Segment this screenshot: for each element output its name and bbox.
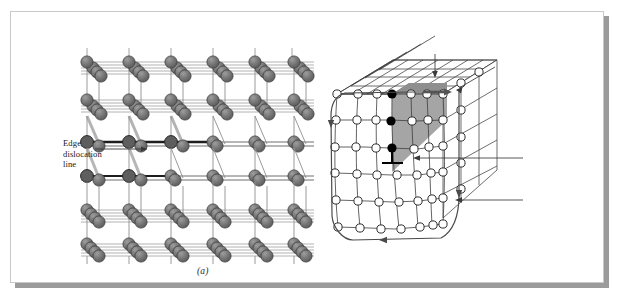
figure-plate: Edge dislocation line (a) bbox=[10, 11, 604, 283]
lattice-upper bbox=[81, 56, 314, 120]
panel-b-cube bbox=[319, 20, 589, 270]
annotation-edge-dislocation-line-a: Edge dislocation line bbox=[63, 138, 125, 170]
lattice-bonds-back bbox=[87, 48, 310, 74]
panel-a-caption: (a) bbox=[197, 266, 209, 276]
panel-a: Edge dislocation line (a) bbox=[29, 20, 319, 270]
figure-page: Edge dislocation line (a) bbox=[0, 0, 624, 304]
figure-content: Edge dislocation line (a) bbox=[29, 20, 589, 270]
panel-b: Extra-half plane of atoms Slip or Burger… bbox=[319, 20, 589, 270]
lattice-lower bbox=[81, 182, 314, 264]
lattice-atoms-upper bbox=[81, 56, 314, 120]
